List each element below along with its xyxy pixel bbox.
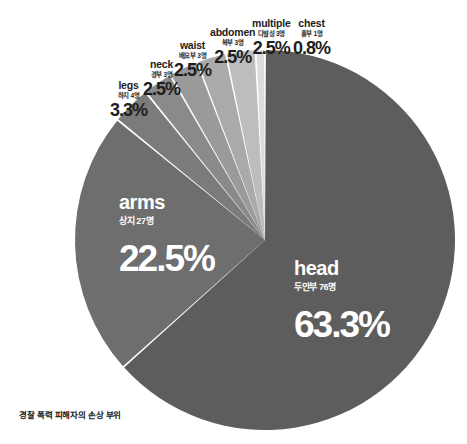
chart-canvas: legs 하지 4명 3.3% neck 경부 3명 2.5% waist 배요…	[0, 0, 467, 444]
callout-name-multiple: multiple	[252, 18, 291, 29]
slice-kr-head: 두안부 76명	[294, 283, 389, 292]
callout-percent-legs: 3.3%	[110, 101, 147, 119]
slice-name-head: head	[294, 258, 389, 278]
slice-label-arms: arms 상지 27명 22.5%	[119, 192, 214, 277]
callout-kr-multiple: 다발성 3명	[252, 31, 291, 38]
callout-percent-neck: 2.5%	[143, 80, 180, 98]
slice-percent-head: 63.3%	[294, 306, 389, 343]
slice-label-head: head 두안부 76명 63.3%	[294, 258, 389, 343]
callout-kr-waist: 배요부 3명	[174, 53, 211, 60]
callout-kr-chest: 흉부 1명	[293, 31, 330, 38]
callout-name-legs: legs	[110, 80, 147, 91]
slice-kr-arms: 상지 27명	[119, 217, 214, 226]
callout-label-abdomen: abdomen 복부 3명 2.5%	[210, 27, 255, 66]
callout-percent-waist: 2.5%	[174, 61, 211, 79]
callout-label-multiple: multiple 다발성 3명 2.5%	[252, 18, 291, 57]
callout-kr-abdomen: 복부 3명	[210, 40, 255, 47]
chart-caption: 경찰 폭력 피해자의 손상 부위	[19, 408, 121, 420]
callout-percent-chest: 0.8%	[293, 39, 330, 57]
callout-name-abdomen: abdomen	[210, 27, 255, 38]
callout-label-waist: waist 배요부 3명 2.5%	[174, 40, 211, 79]
callout-percent-abdomen: 2.5%	[210, 48, 255, 66]
callout-name-waist: waist	[174, 40, 211, 51]
callout-kr-legs: 하지 4명	[110, 93, 147, 100]
callout-label-legs: legs 하지 4명 3.3%	[110, 80, 147, 119]
slice-name-arms: arms	[119, 192, 214, 212]
callout-name-chest: chest	[293, 18, 330, 29]
slice-percent-arms: 22.5%	[119, 240, 214, 277]
callout-percent-multiple: 2.5%	[252, 39, 291, 57]
callout-label-chest: chest 흉부 1명 0.8%	[293, 18, 330, 57]
